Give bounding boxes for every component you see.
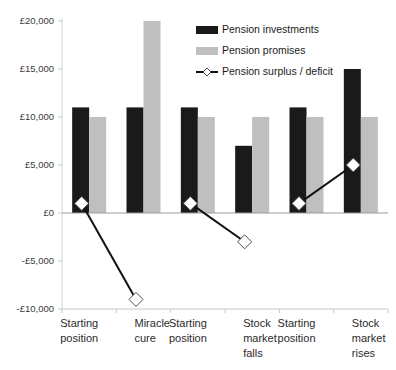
x-axis-category-label: Starting xyxy=(278,317,316,329)
y-axis-tick-label: -£5,000 xyxy=(22,255,54,266)
y-axis-tick-label: £5,000 xyxy=(25,159,54,170)
x-axis-category-label: cure xyxy=(135,332,156,344)
x-axis-category-label: market xyxy=(243,332,277,344)
x-axis-category-label: Starting xyxy=(169,317,207,329)
x-axis-category-label: falls xyxy=(243,347,263,359)
x-axis-category-label: market xyxy=(352,332,386,344)
bar-pension-promises xyxy=(198,117,215,213)
y-axis-tick-label: £10,000 xyxy=(20,111,54,122)
legend-label: Pension promises xyxy=(222,44,305,56)
x-axis-category-label: Miracle xyxy=(135,317,170,329)
legend-swatch xyxy=(196,47,218,55)
x-axis-category-label: Starting xyxy=(60,317,98,329)
bar-pension-investments xyxy=(127,107,144,213)
y-axis-tick-label: -£10,000 xyxy=(16,303,54,314)
bar-pension-investments xyxy=(344,69,361,213)
bar-pension-promises xyxy=(144,21,161,213)
x-axis-category-label: Stock xyxy=(243,317,271,329)
bar-pension-promises xyxy=(307,117,324,213)
y-axis-tick-label: £20,000 xyxy=(20,15,54,26)
bar-pension-promises xyxy=(361,117,378,213)
legend-swatch xyxy=(196,26,218,34)
y-axis-tick-label: £15,000 xyxy=(20,63,54,74)
chart-canvas: £20,000£15,000£10,000£5,000£0-£5,000-£10… xyxy=(0,0,396,370)
bar-pension-investments xyxy=(235,146,252,213)
x-axis-category-label: position xyxy=(278,332,316,344)
pension-chart: £20,000£15,000£10,000£5,000£0-£5,000-£10… xyxy=(0,0,396,370)
x-axis-category-label: Stock xyxy=(352,317,380,329)
x-axis-category-label: position xyxy=(60,332,98,344)
bar-pension-promises xyxy=(252,117,269,213)
x-axis-category-label: rises xyxy=(352,347,376,359)
y-axis-tick-label: £0 xyxy=(43,207,54,218)
legend-label: Pension investments xyxy=(222,23,319,35)
x-axis-category-label: position xyxy=(169,332,207,344)
legend-label: Pension surplus / deficit xyxy=(222,65,333,77)
bar-pension-promises xyxy=(89,117,106,213)
